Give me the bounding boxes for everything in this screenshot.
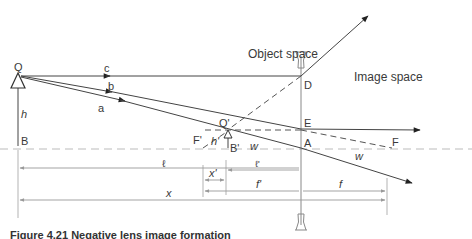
point-E-label: E — [304, 117, 311, 129]
dim-x-prime-label: x' — [208, 167, 218, 179]
figure-caption: Figure 4.21 Negative lens image formatio… — [10, 229, 231, 239]
dim-f-label: f — [339, 178, 343, 190]
field-angle-w-image-label: w — [355, 150, 364, 162]
ray-a-label: a — [98, 102, 105, 114]
ray-b — [21, 76, 420, 148]
point-F-prime-label: F' — [193, 134, 202, 146]
ray-c-label: c — [104, 62, 110, 74]
dim-l-prime-label: ℓ' — [255, 159, 260, 169]
point-Q-prime-label: Q' — [219, 117, 230, 129]
image-space-label: Image space — [354, 70, 423, 84]
dim-x-label: x — [165, 187, 172, 199]
ray-c — [21, 16, 368, 129]
dim-f-prime-label: f' — [256, 178, 262, 190]
field-angle-w-object-label: w — [250, 140, 259, 152]
object-space-label: Object space — [248, 47, 318, 61]
negative-lens-diagram: Object space Image space Q B h c b a D E… — [0, 0, 472, 239]
point-F-label: F — [392, 136, 399, 148]
dimension-lines — [18, 150, 387, 218]
point-A-label: A — [304, 137, 312, 149]
point-B-label: B — [21, 135, 28, 147]
point-D-label: D — [304, 79, 312, 91]
point-Q-label: Q — [14, 61, 23, 73]
height-h-prime-label: h' — [211, 135, 220, 147]
dim-l-label: ℓ — [162, 158, 166, 169]
point-B-prime-label: B' — [230, 142, 239, 154]
height-h-label: h — [21, 108, 27, 120]
ray-b-label: b — [108, 80, 114, 92]
